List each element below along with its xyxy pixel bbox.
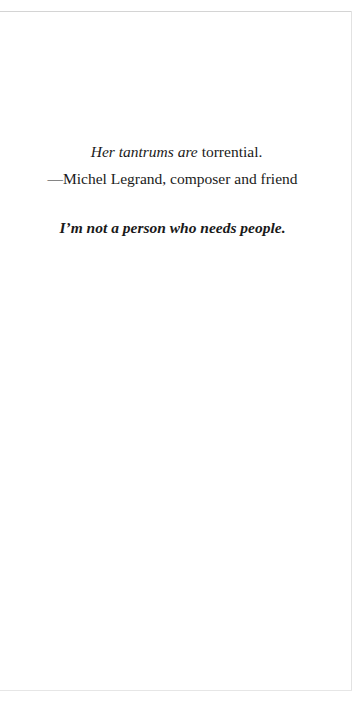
right-page-edge [351, 11, 352, 691]
quote-italic-text: Her tantrums are [91, 143, 198, 160]
quote-line: Her tantrums are torrential. [0, 143, 353, 161]
epigraph-heading: I’m not a person who needs people. [0, 219, 349, 237]
bottom-border-rule [0, 690, 352, 691]
top-border-rule [0, 11, 352, 12]
quote-roman-text: torrential. [198, 143, 263, 160]
quote-attribution: —Michel Legrand, composer and friend [0, 170, 349, 188]
